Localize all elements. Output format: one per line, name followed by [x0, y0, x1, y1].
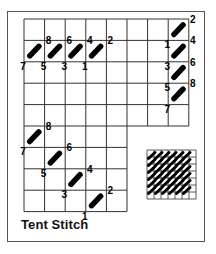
- stitch: [50, 153, 59, 163]
- stitch-number: 4: [87, 35, 93, 46]
- stitch-number: 6: [66, 35, 72, 46]
- stitch-number: 8: [46, 35, 52, 46]
- stitch-number: 5: [164, 82, 170, 93]
- stitch-number: 3: [61, 189, 67, 200]
- stitch: [174, 89, 183, 99]
- stitch: [50, 46, 59, 56]
- stitch-number: 5: [41, 61, 47, 72]
- stitch-number: 4: [87, 164, 93, 175]
- stitch-number: 1: [164, 39, 170, 50]
- caption: Tent Stitch: [21, 217, 88, 232]
- stitch: [92, 46, 101, 56]
- stitch-number: 1: [82, 61, 88, 72]
- stitch: [174, 25, 183, 35]
- stitch-number: 5: [41, 168, 47, 179]
- stitch-number: 7: [20, 61, 26, 72]
- stitch-number: 7: [164, 104, 170, 115]
- stitch-number: 6: [190, 57, 196, 68]
- stitch-number: 7: [20, 146, 26, 157]
- stitch: [71, 175, 80, 185]
- stitch: [92, 196, 101, 206]
- stitch-number: 2: [190, 14, 196, 25]
- stitch: [174, 68, 183, 78]
- stitch-number: 3: [61, 61, 67, 72]
- stitch: [30, 132, 39, 142]
- stitch: [30, 46, 39, 56]
- stitch-number: 4: [190, 35, 196, 46]
- stitch: [71, 46, 80, 56]
- tent-stitch-diagram: 123456781234567812345678: [0, 0, 216, 254]
- stitch: [174, 46, 183, 56]
- stitch-number: 3: [164, 61, 170, 72]
- stitch-number: 2: [108, 35, 114, 46]
- stitch-number: 8: [46, 121, 52, 132]
- stitch-number: 8: [190, 78, 196, 89]
- stitch-number: 6: [66, 142, 72, 153]
- stitch-number: 2: [108, 185, 114, 196]
